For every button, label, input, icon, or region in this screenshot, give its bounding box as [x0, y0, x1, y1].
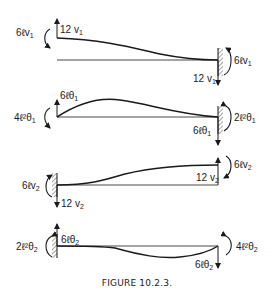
- fixed-support-right: [218, 106, 223, 134]
- moment-arc-icon: [224, 106, 231, 131]
- deflected-beam: [57, 165, 218, 185]
- right-force-label: 12 v2: [196, 172, 219, 184]
- right-moment-label: 6ℓv1: [234, 55, 252, 67]
- left-force-label: 12 v1: [60, 24, 83, 36]
- fixed-support-right: [218, 48, 223, 76]
- right-force-label: 6ℓθ2: [195, 259, 213, 271]
- moment-arc-icon: [46, 236, 52, 257]
- right-force-label: 12 v1: [193, 73, 216, 85]
- moment-arc-icon: [45, 29, 50, 48]
- left-moment-label: 6ℓv1: [16, 27, 34, 39]
- left-moment-label: 6ℓv2: [22, 180, 40, 192]
- right-moment-label: 6ℓv2: [234, 159, 252, 171]
- right-moment-label: 4ℓ²θ2: [236, 241, 258, 253]
- panel-theta2: 2ℓ²θ2 6ℓθ2 4ℓ²θ2 6ℓθ2: [16, 224, 258, 271]
- moment-arc-icon: [224, 48, 231, 75]
- deflected-beam: [57, 38, 218, 60]
- left-force-label: 6ℓθ1: [60, 90, 78, 102]
- panel-v1: 6ℓv1 12 v1 6ℓv1 12 v1: [16, 19, 252, 85]
- moment-arc-icon: [226, 236, 231, 255]
- right-force-label: 6ℓθ1: [193, 125, 211, 137]
- panel-theta1: 4ℓ²θ1 6ℓθ1 2ℓ²θ1 6ℓθ1: [14, 90, 256, 145]
- left-moment-label: 4ℓ²θ1: [14, 112, 36, 124]
- fixed-support-left: [52, 234, 57, 258]
- moment-arc-icon: [46, 175, 52, 197]
- figure-caption: FIGURE 10.2.3.: [102, 278, 172, 288]
- deflected-beam: [57, 99, 218, 117]
- moment-arc-icon: [224, 156, 231, 178]
- fixed-support-left: [52, 173, 57, 197]
- left-moment-label: 2ℓ²θ2: [16, 241, 38, 253]
- right-moment-label: 2ℓ²θ1: [234, 112, 256, 124]
- panel-v2: 6ℓv2 12 v2 6ℓv2 12 v2: [22, 156, 252, 210]
- deflected-beam: [57, 246, 218, 258]
- beam-stiffness-figure: 6ℓv1 12 v1 6ℓv1 12 v1 4ℓ²θ1 6ℓθ1 2ℓ²θ1 6…: [0, 0, 274, 293]
- moment-arc-icon: [45, 108, 50, 128]
- left-force-label: 6ℓθ2: [61, 234, 79, 246]
- left-force-label: 12 v2: [61, 198, 84, 210]
